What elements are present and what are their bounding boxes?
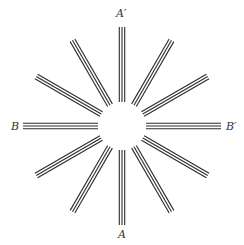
spoke bbox=[119, 27, 124, 102]
label-a-prime: A′ bbox=[116, 8, 126, 19]
spoke bbox=[146, 123, 221, 128]
label-b-prime: B′ bbox=[226, 121, 237, 132]
spoke bbox=[23, 123, 98, 128]
label-b: B bbox=[11, 121, 19, 132]
radial-spoke-diagram bbox=[0, 0, 244, 245]
spoke bbox=[119, 150, 124, 225]
label-a: A bbox=[118, 229, 126, 240]
